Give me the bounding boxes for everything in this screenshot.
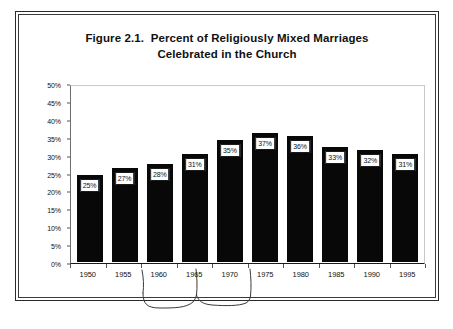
- bar-value-label: 36%: [290, 140, 310, 153]
- x-axis-tick-label: 1980: [283, 270, 319, 279]
- chart-title-line-1: Figure 2.1. Percent of Religiously Mixed…: [16, 30, 438, 46]
- bar-value-label: 35%: [220, 144, 240, 157]
- bar-slot: 31%: [177, 87, 212, 262]
- chart-title-line-2: Celebrated in the Church: [16, 46, 438, 62]
- y-axis-tick-label: 5%: [51, 243, 61, 250]
- bar-slot: 28%: [142, 87, 177, 262]
- bar-slot: 31%: [388, 87, 423, 262]
- figure-border: Figure 2.1. Percent of Religiously Mixed…: [15, 11, 439, 301]
- bar-value-label: 31%: [185, 158, 205, 171]
- bar-series: 25%27%28%31%35%37%36%33%32%31%: [72, 87, 423, 262]
- x-axis-tick-label: 1975: [248, 270, 284, 279]
- y-axis-tick-label: 20%: [47, 189, 61, 196]
- bar-slot: 33%: [318, 87, 353, 262]
- y-axis-tick-label: 40%: [47, 117, 61, 124]
- bar-slot: 35%: [212, 87, 247, 262]
- bar: 25%: [77, 175, 103, 263]
- x-axis-tick-label: 1955: [106, 270, 142, 279]
- x-axis-tick-mark: [390, 264, 391, 268]
- chart-title: Figure 2.1. Percent of Religiously Mixed…: [16, 30, 438, 62]
- y-axis-tick-label: 30%: [47, 153, 61, 160]
- y-axis-tick-label: 50%: [47, 82, 61, 89]
- bar: 27%: [112, 168, 138, 263]
- y-axis-tick-label: 15%: [47, 207, 61, 214]
- bar: 36%: [287, 136, 313, 262]
- x-axis-tick-mark: [248, 264, 249, 268]
- x-axis-tick-mark: [70, 264, 71, 268]
- bar-slot: 25%: [72, 87, 107, 262]
- bar: 37%: [252, 133, 278, 263]
- bar-value-label: 27%: [115, 172, 135, 185]
- x-axis-labels: 1950195519601965197019751980198519901995: [70, 270, 425, 279]
- y-axis-labels: 0%5%10%15%20%25%30%35%40%45%50%: [34, 85, 64, 264]
- bar-value-label: 32%: [360, 154, 380, 167]
- y-axis-tick-label: 35%: [47, 135, 61, 142]
- bar-slot: 27%: [107, 87, 142, 262]
- y-axis-tick-label: 25%: [47, 171, 61, 178]
- plot-wrapper: 0%5%10%15%20%25%30%35%40%45%50% 25%27%28…: [34, 85, 426, 285]
- x-axis-tick-mark: [141, 264, 142, 268]
- x-axis-tick-mark: [319, 264, 320, 268]
- bar-value-label: 25%: [80, 179, 100, 192]
- x-axis-tick-mark: [177, 264, 178, 268]
- x-axis-tick-mark: [354, 264, 355, 268]
- x-axis-tick-label: 1965: [177, 270, 213, 279]
- x-axis-tick-mark: [283, 264, 284, 268]
- bar-slot: 37%: [247, 87, 282, 262]
- y-axis-tick-label: 45%: [47, 99, 61, 106]
- x-axis-tick-mark: [106, 264, 107, 268]
- x-axis-tick-label: 1995: [390, 270, 426, 279]
- bar-value-label: 28%: [150, 168, 170, 181]
- bar-value-label: 37%: [255, 137, 275, 150]
- y-axis-tick-label: 10%: [47, 225, 61, 232]
- bar-value-label: 33%: [325, 151, 345, 164]
- bar: 33%: [322, 147, 348, 263]
- bar: 32%: [357, 150, 383, 262]
- bar: 31%: [392, 154, 418, 263]
- x-axis-tick-label: 1960: [141, 270, 177, 279]
- x-axis-tick-label: 1990: [354, 270, 390, 279]
- bar-slot: 36%: [283, 87, 318, 262]
- x-axis-tick-mark: [212, 264, 213, 268]
- x-axis-tick-mark: [425, 264, 426, 268]
- x-axis-tick-label: 1985: [319, 270, 355, 279]
- y-axis-tick-label: 0%: [51, 261, 61, 268]
- x-axis-ticks: [70, 264, 425, 268]
- bar: 35%: [217, 140, 243, 263]
- bar: 28%: [147, 164, 173, 262]
- figure-container: Figure 2.1. Percent of Religiously Mixed…: [0, 0, 453, 329]
- x-axis-tick-label: 1970: [212, 270, 248, 279]
- x-axis-tick-label: 1950: [70, 270, 106, 279]
- bar-slot: 32%: [353, 87, 388, 262]
- plot-area: 25%27%28%31%35%37%36%33%32%31%: [70, 85, 425, 264]
- bar-value-label: 31%: [396, 158, 416, 171]
- bar: 31%: [182, 154, 208, 263]
